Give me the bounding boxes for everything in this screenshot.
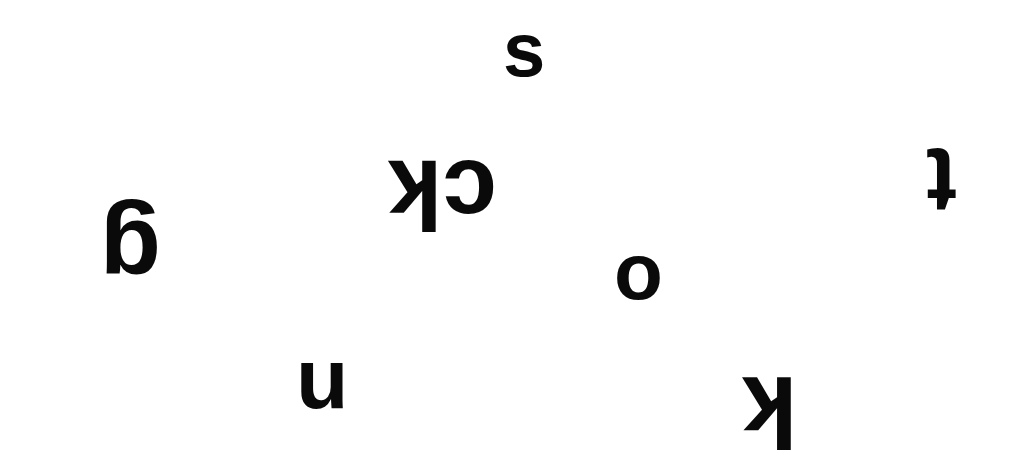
captcha-canvas: s ck t g o n k bbox=[0, 0, 1013, 473]
letter-s: s bbox=[503, 12, 545, 88]
letter-n-rotated: n bbox=[296, 350, 349, 436]
letter-ck-rotated: ck bbox=[388, 146, 497, 244]
letter-g-rotated: g bbox=[100, 205, 161, 305]
letter-o: o bbox=[614, 232, 663, 312]
letter-k-rotated: k bbox=[742, 362, 798, 462]
letter-t-rotated: t bbox=[926, 135, 957, 227]
